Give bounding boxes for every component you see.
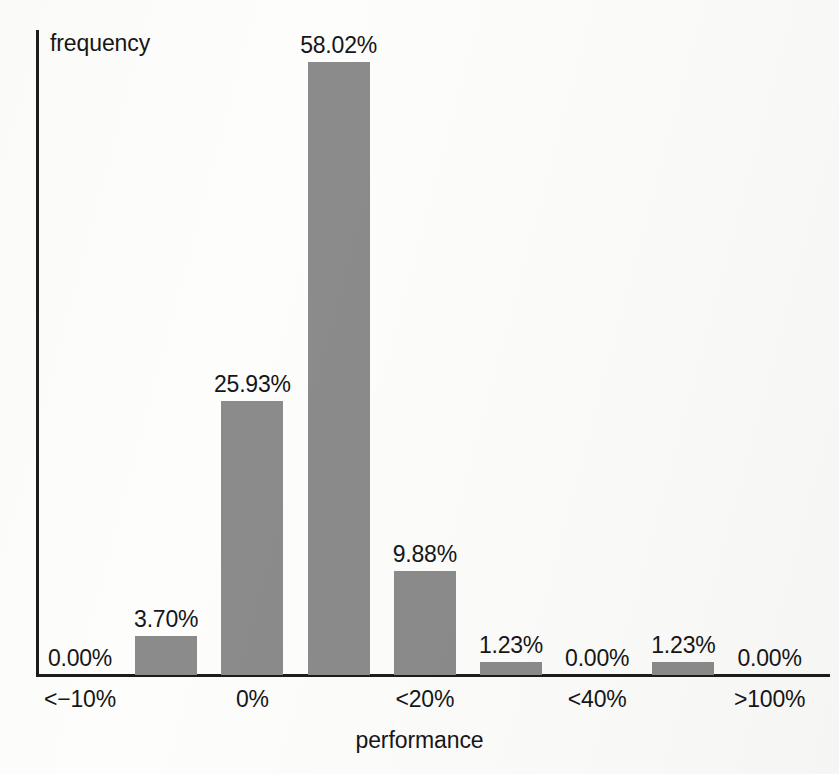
bar-value-label: 0.00% [48, 645, 112, 672]
bar-value-label: 0.00% [565, 645, 629, 672]
x-tick-label: <40% [568, 686, 627, 713]
x-tick-label: >100% [734, 686, 805, 713]
bar [135, 636, 197, 675]
plot-area: 0.00%3.70%25.93%58.02%9.88%1.23%0.00%1.2… [0, 0, 839, 774]
x-tick-label: 0% [236, 686, 269, 713]
y-axis-title: frequency [50, 30, 150, 57]
bar-value-label: 1.23% [651, 632, 715, 659]
x-tick-label: <20% [395, 686, 454, 713]
y-axis-line [36, 30, 39, 676]
bar-value-label: 0.00% [737, 645, 801, 672]
bar-value-label: 25.93% [214, 371, 291, 398]
bar-value-label: 3.70% [134, 606, 198, 633]
bar [221, 401, 283, 675]
bar [480, 662, 542, 675]
bar-value-label: 58.02% [300, 32, 377, 59]
bar-value-label: 9.88% [393, 541, 457, 568]
bar [652, 662, 714, 675]
bar [308, 62, 370, 675]
bar-value-label: 1.23% [479, 632, 543, 659]
bar-chart-figure: 0.00%3.70%25.93%58.02%9.88%1.23%0.00%1.2… [0, 0, 839, 774]
x-axis-title: performance [0, 727, 839, 754]
x-tick-label: <−10% [44, 686, 116, 713]
bar [394, 571, 456, 675]
